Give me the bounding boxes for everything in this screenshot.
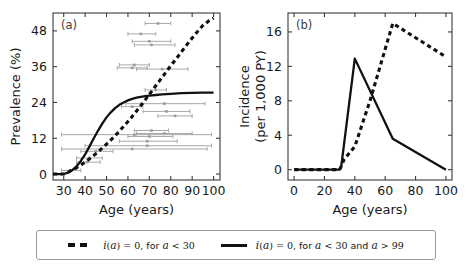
legend-dashed-line-icon [68,243,94,247]
error-bar-point [163,102,166,105]
series-dashed [294,23,446,169]
x-tick-label: 70 [141,183,157,198]
x-tick-label: 80 [163,183,179,198]
error-bar-point [133,64,136,67]
x-tick-label: 50 [99,183,115,198]
panel-a-plot: 30405060708090100012243648(a)Age (years)… [0,0,235,225]
y-tick-label: 12 [266,59,282,74]
error-bar-point [131,67,134,70]
figure-container: 30405060708090100012243648(a)Age (years)… [0,0,471,267]
legend-solid-label: i(a) = 0, for a < 30 and a > 99 [256,239,404,251]
error-bar-point [150,129,153,132]
figure-legend: i(a) = 0, for a < 30 i(a) = 0, for a < 3… [36,230,436,260]
y-axis-label-line1: Incidence [237,65,252,127]
error-bar-point [148,135,151,138]
legend-dashed-label: i(a) = 0, for a < 30 [103,239,195,251]
error-bar-point [146,140,149,143]
y-tick-label: 0 [39,167,47,182]
legend-item-dashed: i(a) = 0, for a < 30 [68,239,195,251]
x-tick-label: 100 [434,183,458,198]
legend-solid-line-icon [221,244,247,247]
y-axis-label-line2: (per 1,000 PY) [253,50,268,143]
error-bar-point [148,40,151,43]
plot-frame [53,13,220,180]
error-bar-point [133,133,136,136]
error-bar-point [131,148,134,151]
x-tick-label: 60 [377,183,393,198]
error-bar-point [95,150,98,153]
panel-b-plot: 0204060801000481216(b)Age (years)Inciden… [235,0,471,225]
y-tick-label: 8 [274,93,282,108]
x-tick-label: 20 [316,183,332,198]
x-tick-label: 100 [202,183,226,198]
x-tick-label: 0 [290,183,298,198]
panel-b-tag: (b) [296,18,312,32]
y-tick-label: 16 [266,24,282,39]
legend-item-solid: i(a) = 0, for a < 30 and a > 99 [221,239,404,251]
y-tick-label: 4 [274,128,282,143]
panel-a-prevalence: 30405060708090100012243648(a)Age (years)… [0,0,235,225]
y-axis-label: Prevalence (%) [8,48,23,146]
x-tick-label: 40 [347,183,363,198]
error-bar-point [146,144,149,147]
error-bar-point [165,110,168,113]
y-tick-label: 36 [31,59,47,74]
panel-a-tag: (a) [61,18,77,32]
y-tick-label: 0 [274,162,282,177]
error-bar-point [161,68,164,71]
x-tick-label: 30 [56,183,72,198]
error-bar-point [139,33,142,36]
error-bar-point [154,89,157,92]
error-bar-point [157,22,160,25]
series-solid [294,59,446,170]
error-bar-point [131,105,134,108]
x-tick-label: 60 [120,183,136,198]
error-bar-point [150,44,153,47]
x-tick-label: 80 [408,183,424,198]
y-tick-label: 48 [31,23,47,38]
x-axis-label: Age (years) [332,202,407,217]
x-tick-label: 40 [77,183,93,198]
error-bar-point [174,115,177,118]
y-tick-label: 24 [31,95,47,110]
x-tick-label: 90 [184,183,200,198]
panel-b-incidence: 0204060801000481216(b)Age (years)Inciden… [235,0,471,225]
y-tick-label: 12 [31,131,47,146]
x-axis-label: Age (years) [99,202,174,217]
